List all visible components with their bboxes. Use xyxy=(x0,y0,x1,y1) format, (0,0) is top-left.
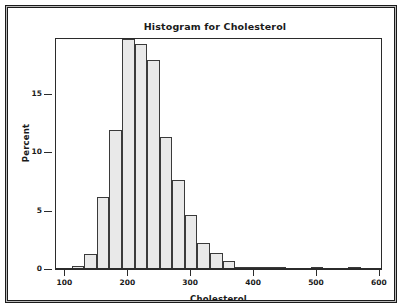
x-axis-tick-label: 600 xyxy=(359,278,399,287)
chart-title: Histogram for Cholesterol xyxy=(48,21,382,32)
histogram-bar xyxy=(210,253,223,269)
histogram-bar xyxy=(197,243,210,269)
y-axis-line xyxy=(55,38,56,269)
histogram-bar xyxy=(147,60,160,269)
histogram-bar xyxy=(84,254,97,269)
plot-area xyxy=(55,38,382,269)
histogram-bar xyxy=(172,180,185,269)
x-axis-tick xyxy=(379,269,380,276)
x-axis-tick xyxy=(316,269,317,276)
y-axis-tick-label: 0 xyxy=(10,264,42,273)
x-axis-title: Cholesterol xyxy=(55,294,382,304)
y-axis-tick xyxy=(44,211,52,212)
histogram-bar xyxy=(135,44,148,269)
histogram-bar xyxy=(185,215,198,269)
histogram-bar xyxy=(109,130,122,269)
figure-border: Histogram for Cholesterol 051015 1002003… xyxy=(5,5,397,303)
y-axis-tick-label: 15 xyxy=(10,89,42,98)
x-axis-tick xyxy=(127,269,128,276)
screenshot-root: Histogram for Cholesterol 051015 1002003… xyxy=(0,0,402,308)
x-axis-tick xyxy=(253,269,254,276)
x-axis-line xyxy=(55,268,382,270)
x-axis-tick-label: 300 xyxy=(170,278,210,287)
histogram-bars xyxy=(56,39,381,269)
y-axis-tick-label: 5 xyxy=(10,206,42,215)
y-axis-tick xyxy=(44,94,52,95)
y-axis-tick xyxy=(44,152,52,153)
x-axis-tick-label: 500 xyxy=(296,278,336,287)
x-axis-tick xyxy=(64,269,65,276)
x-axis-tick-label: 100 xyxy=(44,278,84,287)
histogram-bar xyxy=(97,197,110,269)
x-axis-tick xyxy=(190,269,191,276)
histogram-bar xyxy=(122,39,135,269)
y-axis-title: Percent xyxy=(21,113,31,173)
y-axis-tick xyxy=(44,269,52,270)
histogram-bar xyxy=(160,137,173,269)
x-axis-tick-label: 200 xyxy=(107,278,147,287)
x-axis-tick-label: 400 xyxy=(233,278,273,287)
